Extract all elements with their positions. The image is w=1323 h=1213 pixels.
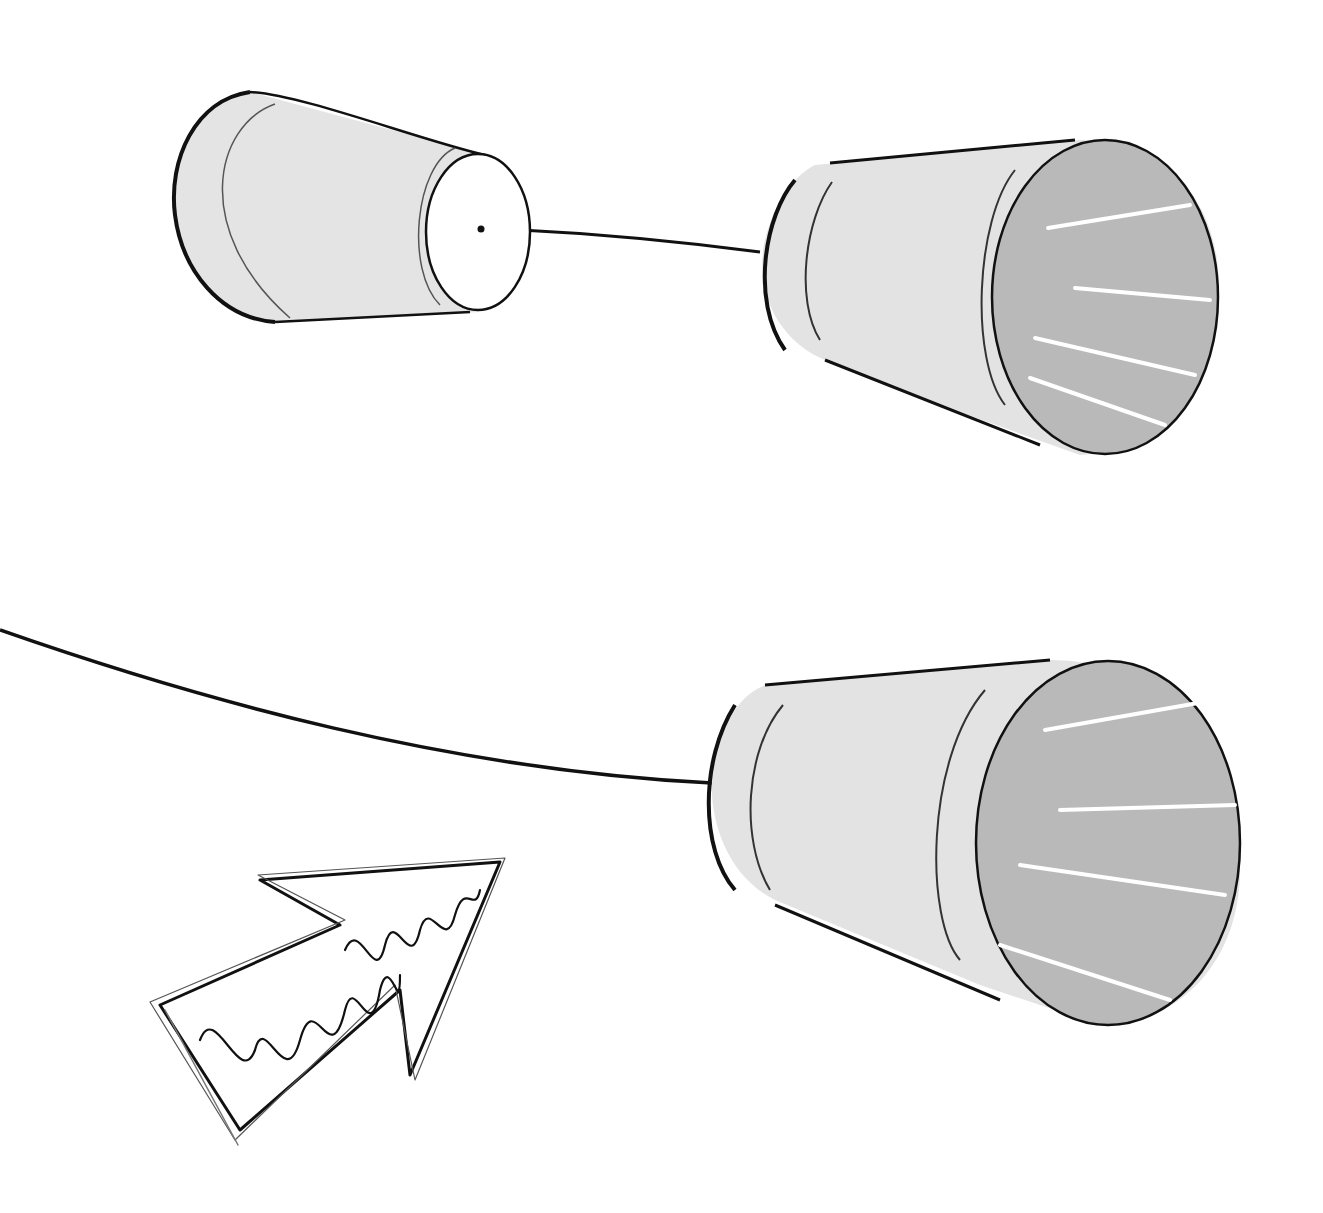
cup-bottom-right (709, 660, 1240, 1025)
sketch-arrow (150, 858, 505, 1145)
string-knot-icon (478, 226, 485, 233)
cup-small-back (174, 92, 530, 322)
illustration-canvas (0, 0, 1323, 1213)
cup-top-right (762, 140, 1219, 455)
string-bottom (0, 630, 712, 783)
